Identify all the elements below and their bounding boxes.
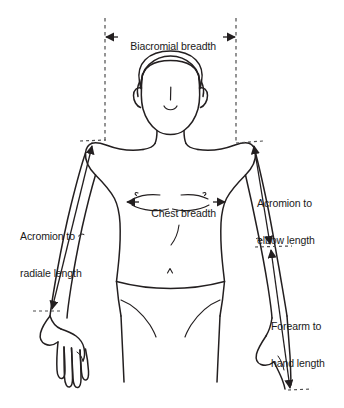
label-acromion-to-radiale-length: Acromion to radiale length [20,205,82,304]
jaw-line [155,131,157,144]
briefs-edge-left [121,300,156,337]
label-acromion-to-radiale-line-2: radiale length [20,267,82,279]
chest-curl-left [135,193,138,196]
label-forearm-to-hand-line-2: hand length [271,357,325,369]
label-acromion-to-radiale-line-1: Acromion to [20,230,82,242]
label-acromion-to-elbow-line-2: elbow length [257,234,315,246]
hip-left-side [117,282,122,317]
label-biacromial-breadth-text: Biacromial breadth [130,40,216,52]
label-acromion-to-elbow-line-1: Acromion to [257,197,315,209]
acromion-tick-left [80,140,106,141]
label-forearm-to-hand-line-1: Forearm to [271,320,325,332]
hair-side-right [202,82,204,97]
label-biacromial-breadth: Biacromial breadth [119,28,216,65]
neck-left [143,144,155,150]
torso-right-side [221,143,256,281]
anthropometric-diagram: Biacromial breadth Chest breadth Acromio… [0,0,344,408]
wrist-left [50,316,61,329]
jaw-line-right [184,131,186,144]
label-chest-breadth: Chest breadth [140,195,216,232]
briefs-edge-right [185,300,220,337]
label-forearm-to-hand-length: Forearm to hand length [271,295,325,394]
shoulder-left [92,143,143,151]
mouth-line [164,106,177,110]
label-chest-breadth-text: Chest breadth [151,207,216,219]
neck-right [186,144,198,150]
thigh-right-outline [217,316,220,382]
navel-mark [168,269,173,274]
label-acromion-to-elbow-length: Acromion to elbow length [257,172,315,271]
shoulder-right [198,143,249,151]
thumb-left [40,316,58,345]
hip-right-side [220,282,225,317]
torso-left-side [85,143,120,281]
hair-side-left [138,82,140,97]
face-outline [141,74,200,135]
thigh-left-outline [121,316,124,382]
waistband-line [117,282,225,289]
